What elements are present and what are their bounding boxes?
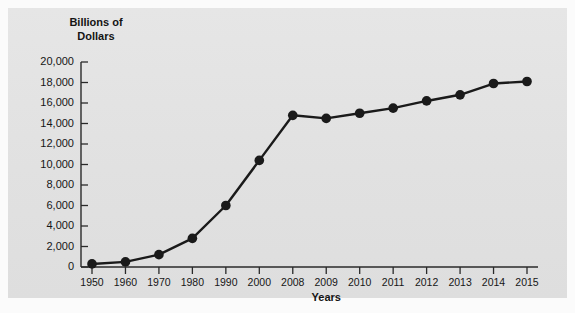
y-tick-label: 18,000: [26, 76, 74, 88]
y-tick-marks: [81, 62, 88, 267]
x-tick-label: 2015: [505, 276, 549, 288]
y-tick-label: 20,000: [26, 55, 74, 67]
plot-area: 02,0004,0006,0008,00010,00012,00014,0001…: [0, 0, 575, 313]
x-axis-title: Years: [291, 291, 361, 303]
data-point-marker: [121, 257, 131, 267]
y-tick-label: 8,000: [26, 178, 74, 190]
data-point-marker: [522, 77, 532, 87]
data-point-marker: [321, 114, 331, 124]
data-point-marker: [87, 259, 97, 269]
data-point-marker: [388, 103, 398, 113]
y-tick-label: 4,000: [26, 219, 74, 231]
chart-svg: [0, 0, 575, 313]
chart-figure: Billions of Dollars 02,0004,0006,0008,00…: [0, 0, 575, 313]
data-point-marker: [288, 110, 298, 120]
y-tick-label: 16,000: [26, 96, 74, 108]
x-tick-marks: [92, 267, 527, 274]
y-tick-label: 12,000: [26, 137, 74, 149]
data-point-marker: [489, 79, 499, 89]
y-tick-label: 10,000: [26, 158, 74, 170]
y-tick-label: 14,000: [26, 117, 74, 129]
data-point-marker: [221, 201, 231, 211]
y-tick-label: 6,000: [26, 199, 74, 211]
data-point-marker: [254, 156, 264, 166]
data-markers: [87, 77, 532, 269]
y-tick-label: 2,000: [26, 240, 74, 252]
data-point-marker: [455, 90, 465, 100]
data-point-marker: [355, 108, 365, 118]
data-point-marker: [154, 250, 164, 260]
y-tick-label: 0: [26, 260, 74, 272]
data-point-marker: [422, 96, 432, 106]
data-point-marker: [188, 233, 198, 243]
data-line: [92, 81, 527, 263]
